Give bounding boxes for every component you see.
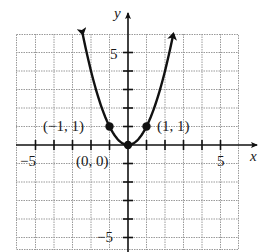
point-label-1-1: (1, 1) bbox=[157, 118, 190, 135]
point-label-neg1-1: (−1, 1) bbox=[43, 118, 84, 135]
y-tick-label-5: 5 bbox=[110, 46, 118, 62]
x-tick-label-neg5: −5 bbox=[20, 153, 36, 169]
parabola-chart: x y −5 5 5 −5 (−1, 1) (0, 0) (1, 1) bbox=[0, 0, 265, 252]
point-marker bbox=[142, 122, 150, 130]
y-axis-label: y bbox=[112, 5, 121, 21]
point-marker bbox=[124, 141, 132, 149]
x-tick-label-5: 5 bbox=[217, 153, 225, 169]
y-tick-label-neg5: −5 bbox=[97, 229, 113, 245]
point-label-0-0: (0, 0) bbox=[76, 153, 109, 170]
point-marker bbox=[105, 122, 113, 130]
x-axis-label: x bbox=[249, 148, 257, 164]
